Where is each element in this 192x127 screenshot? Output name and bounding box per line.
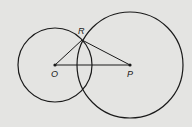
label-r: R (78, 26, 85, 36)
label-o: O (51, 69, 58, 79)
background (0, 0, 192, 127)
geometry-diagram: R O P (0, 0, 192, 127)
label-p: P (127, 69, 133, 79)
point-o-dot (53, 63, 56, 66)
point-p-dot (128, 63, 131, 66)
